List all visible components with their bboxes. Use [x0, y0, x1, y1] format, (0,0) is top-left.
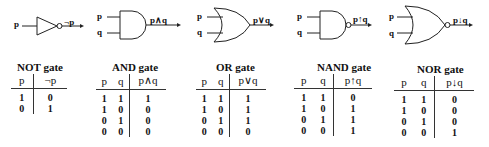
table-row: 10 — [11, 89, 67, 104]
nor-gate-symbol-icon — [387, 0, 489, 50]
gate-title: NAND gate — [317, 61, 371, 73]
and-gate-symbol-icon — [90, 0, 190, 50]
not-gate: p ¬p NOT gate p¬p 10 01 — [0, 0, 90, 147]
truth-table: p¬p 10 01 — [11, 74, 67, 114]
table-row: 100 — [96, 104, 166, 115]
table-row: 010 — [394, 116, 474, 127]
header-output: p↓q — [434, 76, 474, 91]
header-p: p — [196, 74, 212, 90]
gate-title: NOT gate — [17, 61, 63, 73]
table-row: 110 — [394, 91, 474, 106]
header-p: p — [11, 74, 33, 89]
gate-title: AND gate — [112, 61, 158, 73]
table-row: 100 — [394, 105, 474, 116]
header-output: p∨q — [230, 74, 266, 90]
table-row: 001 — [294, 125, 372, 136]
table-row: 01 — [11, 103, 67, 114]
input-p-label: p — [97, 11, 102, 21]
table-row: 111 — [196, 90, 266, 105]
gate-title: OR gate — [216, 61, 255, 73]
input-p-label: p — [14, 19, 19, 29]
header-p: p — [294, 74, 313, 89]
table-row: 110 — [294, 89, 372, 104]
truth-table: pqp∨q 111 101 011 000 — [196, 74, 266, 137]
table-row: 101 — [294, 103, 372, 114]
header-q: q — [313, 74, 333, 89]
table-row: 011 — [294, 114, 372, 125]
nand-gate-symbol-icon — [290, 0, 387, 50]
output-label: ¬p — [64, 17, 74, 27]
input-p-label: p — [297, 11, 302, 21]
table-row: 000 — [196, 126, 266, 137]
input-p-label: p — [389, 11, 394, 21]
output-label: p↑q — [353, 14, 368, 24]
nand-gate: p q p↑q NAND gate pqp↑q 110 101 011 001 — [290, 0, 387, 147]
table-row: 111 — [96, 90, 166, 105]
header-output: p↑q — [333, 74, 372, 89]
truth-table: pqp∧q 111 100 010 000 — [96, 74, 166, 137]
input-q-label: q — [197, 27, 202, 37]
input-q-label: q — [389, 28, 394, 38]
header-p: p — [394, 76, 414, 91]
output-label: p∧q — [150, 15, 167, 25]
input-p-label: p — [197, 11, 202, 21]
truth-table: pqp↓q 110 100 010 001 — [394, 76, 474, 138]
gate-title: NOR gate — [417, 63, 464, 75]
table-row: 010 — [96, 115, 166, 126]
output-label: p↓q — [453, 15, 468, 25]
header-q: q — [414, 76, 435, 91]
or-gate: p q p∨q OR gate pqp∨q 111 101 011 000 — [190, 0, 290, 147]
input-q-label: q — [97, 27, 102, 37]
truth-table: pqp↑q 110 101 011 001 — [294, 74, 372, 136]
nor-gate: p q p↓q NOR gate pqp↓q 110 100 010 001 — [387, 0, 489, 147]
or-gate-symbol-icon — [190, 0, 290, 50]
output-label: p∨q — [253, 15, 270, 25]
table-row: 101 — [196, 104, 266, 115]
input-q-label: q — [297, 27, 302, 37]
header-output: p∧q — [130, 74, 166, 90]
header-q: q — [112, 74, 129, 90]
header-p: p — [96, 74, 112, 90]
and-gate: p q p∧q AND gate pqp∧q 111 100 010 000 — [90, 0, 190, 147]
table-row: 011 — [196, 115, 266, 126]
header-q: q — [212, 74, 229, 90]
table-row: 001 — [394, 127, 474, 138]
table-row: 000 — [96, 126, 166, 137]
header-output: ¬p — [33, 74, 67, 89]
